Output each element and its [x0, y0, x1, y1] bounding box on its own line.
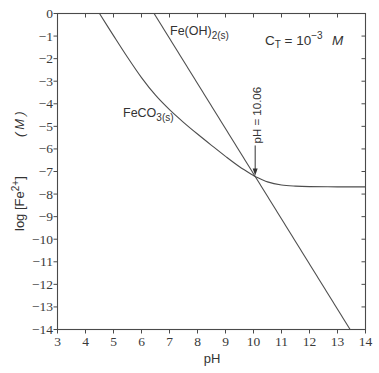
y-tick-label: 0 — [46, 6, 53, 21]
y-tick-label: −4 — [39, 96, 54, 111]
series-label-feoh2: Fe(OH)2(s) — [170, 24, 229, 41]
annotation-ct-sup: −3 — [311, 30, 323, 41]
x-tick-label: 8 — [194, 334, 201, 349]
ticks — [54, 14, 366, 334]
series-label-feco3: FeCO3(s) — [123, 106, 174, 123]
x-tick-label: 7 — [166, 334, 173, 349]
y-axis-label-unit: (M) — [12, 109, 27, 138]
annotation-ct-eq: = 10 — [281, 33, 311, 48]
series-label-feco3-sub: 3(s) — [156, 112, 173, 123]
y-axis-label-sup: 2+ — [10, 180, 21, 192]
annotation-intersection-label: pH = 10.06 — [251, 87, 263, 144]
chart: 345678910111213140−1−2−3−4−5−6−7−8−9−10−… — [0, 0, 379, 373]
y-tick-label: −13 — [32, 299, 53, 314]
y-tick-label: −11 — [32, 254, 53, 269]
x-tick-label: 14 — [359, 334, 373, 349]
series-line-feoh2 — [154, 14, 350, 330]
y-tick-label: −1 — [39, 29, 53, 44]
x-tick-label: 3 — [54, 334, 61, 349]
y-axis-label-prefix: log [Fe — [12, 191, 27, 231]
y-tick-label: −14 — [32, 322, 53, 337]
x-tick-label: 6 — [138, 334, 145, 349]
y-tick-label: −10 — [32, 232, 53, 247]
y-tick-label: −9 — [39, 209, 54, 224]
x-tick-label: 10 — [247, 334, 261, 349]
y-axis-label-suffix: ] — [12, 176, 27, 180]
y-tick-label: −7 — [39, 164, 54, 179]
series-label-feoh2-main: Fe(OH) — [170, 24, 212, 38]
annotation-ct-unit: M — [332, 33, 344, 48]
x-axis-label: pH — [204, 351, 221, 366]
y-tick-label: −5 — [39, 119, 54, 134]
x-tick-label: 11 — [275, 334, 288, 349]
annotation-ct-c: C — [265, 33, 275, 48]
y-axis-label: log [Fe2+] — [10, 176, 27, 231]
x-tick-label: 4 — [82, 334, 89, 349]
y-tick-label: −2 — [39, 51, 53, 66]
x-tick-label: 9 — [222, 334, 229, 349]
y-tick-label: −3 — [39, 74, 54, 89]
series-label-feoh2-sub: 2(s) — [212, 30, 229, 41]
y-tick-label: −12 — [32, 277, 53, 292]
plot-frame — [58, 14, 366, 330]
x-tick-label: 13 — [331, 334, 345, 349]
x-tick-label: 5 — [110, 334, 117, 349]
annotation-total-carbonate: CT = 10−3M — [265, 30, 344, 50]
series — [100, 14, 366, 330]
series-line-feco3 — [100, 14, 366, 187]
series-label-feco3-main: FeCO — [123, 106, 157, 120]
x-tick-label: 12 — [303, 334, 317, 349]
tick-labels: 345678910111213140−1−2−3−4−5−6−7−8−9−10−… — [32, 6, 373, 349]
y-tick-label: −8 — [39, 187, 54, 202]
y-tick-label: −6 — [39, 141, 54, 156]
